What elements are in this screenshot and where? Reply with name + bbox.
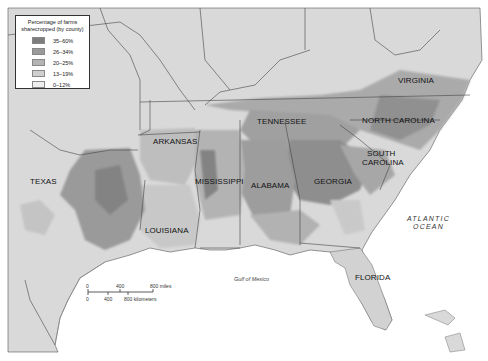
label-south-carolina-2: CAROLINA xyxy=(362,158,404,167)
legend-item: 0–12% xyxy=(20,79,85,90)
label-arkansas: ARKANSAS xyxy=(153,137,197,146)
label-gulf-of-mexico: Gulf of Mexico xyxy=(234,276,269,282)
scale-km-0: 0 xyxy=(86,296,89,302)
legend-label: 35–60% xyxy=(53,38,73,44)
label-louisiana: LOUISIANA xyxy=(145,226,189,235)
atlantic-line-1: ATLANTIC xyxy=(407,215,450,223)
scale-km-800: 800 kilometers xyxy=(124,296,157,302)
legend-swatch xyxy=(32,59,45,66)
legend-item: 13–19% xyxy=(20,68,85,79)
label-north-carolina: NORTH CAROLINA xyxy=(362,116,435,125)
label-georgia: GEORGIA xyxy=(314,177,352,186)
legend-item: 26–34% xyxy=(20,46,85,57)
label-florida: FLORIDA xyxy=(355,273,390,282)
label-south-carolina-1: SOUTH xyxy=(367,149,396,158)
legend-label: 20–25% xyxy=(53,60,73,66)
label-alabama: ALABAMA xyxy=(251,181,290,190)
label-virginia: VIRGINIA xyxy=(398,76,434,85)
legend-item: 20–25% xyxy=(20,57,85,68)
legend-swatch xyxy=(32,81,45,88)
legend: Percentage of farms sharecropped (by cou… xyxy=(15,15,90,89)
scale-miles-0: 0 xyxy=(86,283,89,289)
scale-miles-400: 400 xyxy=(116,283,124,289)
label-texas: TEXAS xyxy=(30,177,57,186)
label-tennessee: TENNESSEE xyxy=(257,117,306,126)
legend-swatch xyxy=(32,48,45,55)
legend-title: Percentage of farms sharecropped (by cou… xyxy=(20,19,85,32)
scale-km-400: 400 xyxy=(104,296,112,302)
label-mississippi: MISSISSIPPI xyxy=(195,177,244,186)
legend-label: 0–12% xyxy=(53,82,70,88)
scale-miles-800: 800 miles xyxy=(150,283,171,289)
legend-swatch xyxy=(32,37,45,44)
legend-label: 13–19% xyxy=(53,71,73,77)
legend-item: 35–60% xyxy=(20,35,85,46)
legend-label: 26–34% xyxy=(53,49,73,55)
legend-swatch xyxy=(32,70,45,77)
label-atlantic-ocean: ATLANTIC OCEAN xyxy=(407,215,450,231)
atlantic-line-2: OCEAN xyxy=(407,223,450,231)
scale-bar: 0 400 800 miles 0 400 800 kilometers xyxy=(86,283,196,313)
